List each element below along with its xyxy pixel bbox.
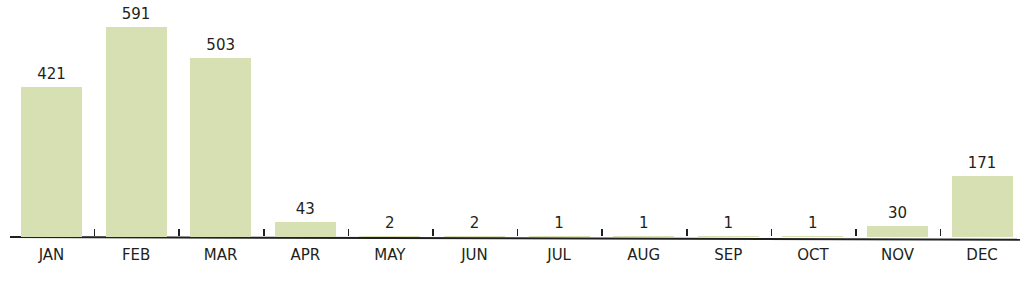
value-label: 1 (688, 214, 768, 232)
value-label: 30 (858, 204, 938, 222)
value-label: 171 (942, 154, 1022, 172)
axis-tick (601, 229, 603, 236)
bar-mar (190, 58, 251, 237)
axis-tick (432, 229, 434, 236)
category-label: NOV (858, 246, 938, 264)
category-label: DEC (942, 246, 1022, 264)
value-label: 591 (96, 5, 176, 23)
category-label: SEP (688, 246, 768, 264)
axis-tick (686, 229, 688, 236)
bar-apr (275, 222, 336, 237)
axis-tick (263, 229, 265, 236)
value-label: 1 (773, 214, 853, 232)
bar-jan (21, 87, 82, 237)
value-label: 43 (265, 200, 345, 218)
bar-oct (782, 236, 843, 237)
value-label: 421 (12, 65, 92, 83)
category-label: JAN (12, 246, 92, 264)
axis-tick (855, 229, 857, 236)
axis-tick (940, 229, 942, 236)
value-label: 2 (350, 214, 430, 232)
axis-tick (771, 229, 773, 236)
category-label: JUN (435, 246, 515, 264)
category-label: AUG (604, 246, 684, 264)
monthly-bar-chart: 421JAN591FEB503MAR43APR2MAY2JUN1JUL1AUG1… (0, 0, 1026, 283)
category-label: FEB (96, 246, 176, 264)
value-label: 2 (435, 214, 515, 232)
value-label: 503 (181, 36, 261, 54)
bar-feb (106, 27, 167, 237)
category-label: APR (265, 246, 345, 264)
axis-tick (348, 229, 350, 236)
category-label: MAY (350, 246, 430, 264)
bar-aug (613, 236, 674, 237)
axis-tick (178, 229, 180, 236)
bar-jul (529, 236, 590, 237)
bar-may (359, 236, 420, 237)
bar-nov (867, 226, 928, 237)
bar-sep (698, 236, 759, 237)
value-label: 1 (604, 214, 684, 232)
axis-tick (517, 229, 519, 236)
value-label: 1 (519, 214, 599, 232)
category-label: OCT (773, 246, 853, 264)
axis-tick (94, 229, 96, 236)
bar-dec (952, 176, 1013, 237)
category-label: JUL (519, 246, 599, 264)
category-label: MAR (181, 246, 261, 264)
bar-jun (444, 236, 505, 237)
